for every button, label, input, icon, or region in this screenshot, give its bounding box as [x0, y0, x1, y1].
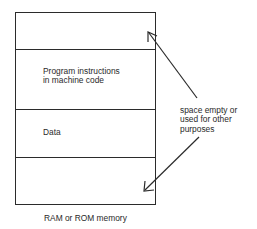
arrow-up-icon [148, 32, 197, 98]
arrows [0, 0, 257, 229]
arrow-down-icon [144, 137, 199, 191]
